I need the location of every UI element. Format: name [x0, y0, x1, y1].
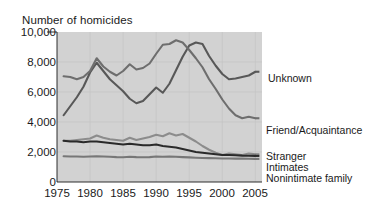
series-label-unknown: Unknown — [268, 72, 312, 84]
series-label-friend-acquaintance: Friend/Acquaintance — [266, 124, 362, 136]
series-label-nonintimate-family: Nonintimate family — [266, 172, 352, 184]
homicides-line-chart: Number of homicides 10,000 8,000 6,000 4… — [0, 0, 375, 215]
